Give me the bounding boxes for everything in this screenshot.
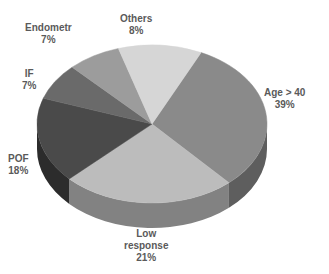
- slice-percent: 18%: [8, 165, 29, 177]
- label-others: Others8%: [120, 13, 152, 37]
- slice-label-text: response: [124, 240, 168, 252]
- label-if: IF7%: [22, 68, 36, 92]
- label-endometr: Endometr7%: [25, 22, 72, 46]
- slice-percent: 7%: [25, 34, 72, 46]
- slice-percent: 8%: [120, 25, 152, 37]
- slice-label-text: Low: [124, 228, 168, 240]
- slice-label-text: POF: [8, 153, 29, 165]
- slice-label-text: Endometr: [25, 22, 72, 34]
- slice-label-text: Others: [120, 13, 152, 25]
- label-low-response: Lowresponse21%: [124, 228, 168, 264]
- label-pof: POF18%: [8, 153, 29, 177]
- slice-percent: 7%: [22, 80, 36, 92]
- slice-percent: 39%: [264, 99, 305, 111]
- pie-slices: [37, 45, 267, 203]
- slice-label-text: Age > 40: [264, 87, 305, 99]
- slice-percent: 21%: [124, 252, 168, 264]
- slice-label-text: IF: [22, 68, 36, 80]
- label-age-40: Age > 4039%: [264, 87, 305, 111]
